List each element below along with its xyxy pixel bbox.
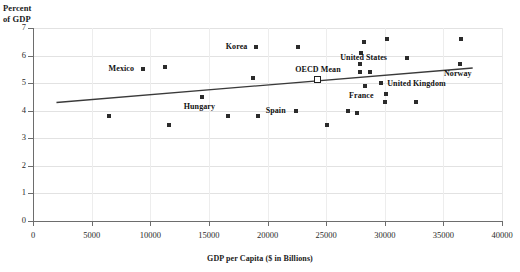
x-axis-tick bbox=[92, 221, 93, 226]
y-axis-tick-label: 5 bbox=[0, 78, 26, 87]
data-point-label: Mexico bbox=[109, 64, 134, 73]
data-point-label: France bbox=[349, 91, 374, 100]
gridline-vertical bbox=[150, 28, 151, 221]
data-point bbox=[358, 62, 362, 66]
y-axis-tick bbox=[28, 138, 34, 139]
x-axis-tick bbox=[326, 221, 327, 226]
data-point bbox=[414, 100, 418, 104]
x-axis-tick bbox=[209, 221, 210, 226]
data-point-label: Hungary bbox=[184, 102, 215, 111]
y-axis-tick-label: 2 bbox=[0, 161, 26, 170]
data-point bbox=[383, 100, 387, 104]
x-axis-tick-label: 30000 bbox=[355, 230, 415, 240]
data-point bbox=[385, 37, 389, 41]
x-axis-tick-label: 35000 bbox=[413, 230, 473, 240]
y-axis-tick bbox=[28, 166, 34, 167]
data-point bbox=[459, 37, 463, 41]
data-point bbox=[362, 40, 366, 44]
y-axis-tick bbox=[28, 193, 34, 194]
gridline-vertical bbox=[92, 28, 93, 221]
data-point bbox=[200, 95, 204, 99]
data-point bbox=[346, 109, 350, 113]
data-point bbox=[296, 45, 300, 49]
x-axis-tick bbox=[268, 221, 269, 226]
x-axis-tick-label: 5000 bbox=[62, 230, 122, 240]
plot-area bbox=[33, 28, 502, 221]
x-axis-title: GDP per Capita ($ in Billions) bbox=[0, 254, 520, 263]
scatter-chart: Percent of GDP GDP per Capita ($ in Bill… bbox=[0, 0, 520, 272]
y-axis-tick-label: 6 bbox=[0, 51, 26, 60]
data-point bbox=[379, 81, 383, 85]
y-axis-tick-label: 4 bbox=[0, 106, 26, 115]
y-axis-tick-label: 0 bbox=[0, 216, 26, 225]
y-axis-tick bbox=[28, 111, 34, 112]
data-point bbox=[363, 84, 367, 88]
x-axis-tick bbox=[385, 221, 386, 226]
data-point bbox=[256, 114, 260, 118]
data-point bbox=[358, 70, 362, 74]
plot-frame-right bbox=[502, 28, 503, 221]
x-axis-tick-label: 20000 bbox=[238, 230, 298, 240]
y-axis-tick-label: 1 bbox=[0, 188, 26, 197]
x-axis-tick-label: 0 bbox=[3, 230, 63, 240]
gridline-vertical bbox=[268, 28, 269, 221]
data-point bbox=[294, 109, 298, 113]
x-axis-tick-label: 40000 bbox=[472, 230, 520, 240]
data-point bbox=[405, 56, 409, 60]
x-axis-tick-label: 25000 bbox=[296, 230, 356, 240]
data-point bbox=[167, 123, 171, 127]
y-axis-title: Percent of GDP bbox=[3, 3, 31, 24]
data-point bbox=[163, 65, 167, 69]
data-point-label: Norway bbox=[444, 69, 472, 78]
x-axis-tick-label: 10000 bbox=[120, 230, 180, 240]
data-point bbox=[384, 92, 388, 96]
x-axis-tick bbox=[443, 221, 444, 226]
data-point-label: OECD Mean bbox=[295, 65, 341, 74]
gridline-vertical bbox=[443, 28, 444, 221]
data-point bbox=[226, 114, 230, 118]
data-point-label: Spain bbox=[266, 106, 286, 115]
data-point bbox=[355, 111, 359, 115]
y-axis-tick bbox=[28, 83, 34, 84]
data-point bbox=[368, 70, 372, 74]
y-axis-tick bbox=[28, 56, 34, 57]
data-point bbox=[107, 114, 111, 118]
y-axis-tick-label: 3 bbox=[0, 133, 26, 142]
y-axis-tick bbox=[28, 28, 34, 29]
data-point bbox=[251, 76, 255, 80]
x-axis-tick bbox=[150, 221, 151, 226]
oecd-mean-marker bbox=[314, 76, 321, 83]
x-axis-tick-label: 15000 bbox=[179, 230, 239, 240]
y-axis-tick-label: 7 bbox=[0, 23, 26, 32]
data-point bbox=[141, 67, 145, 71]
x-axis-tick bbox=[33, 221, 34, 226]
data-point-label: Korea bbox=[226, 42, 248, 51]
data-point bbox=[325, 123, 329, 127]
data-point-label: United States bbox=[340, 53, 387, 62]
data-point-label: United Kingdom bbox=[387, 79, 446, 88]
gridline-vertical bbox=[209, 28, 210, 221]
data-point bbox=[458, 62, 462, 66]
x-axis-tick bbox=[502, 221, 503, 226]
data-point bbox=[254, 45, 258, 49]
